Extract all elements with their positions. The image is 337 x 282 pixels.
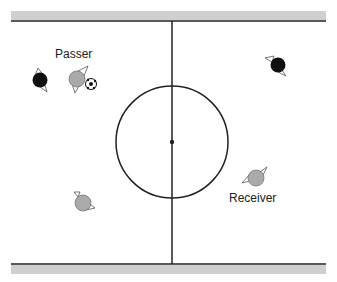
teammate-player-icon	[74, 192, 95, 211]
passer-player-icon	[69, 66, 88, 93]
center-spot	[170, 140, 174, 144]
ball-icon	[86, 79, 97, 90]
receiver-label: Receiver	[229, 191, 276, 205]
opponent-player-icon	[33, 68, 48, 92]
top-touchline-band	[11, 11, 326, 20]
opponent-player-icon	[265, 56, 286, 76]
soccer-field-diagram	[0, 0, 337, 282]
passer-label: Passer	[55, 47, 92, 61]
bottom-touchline-band	[11, 265, 326, 274]
receiver-player-icon	[242, 167, 267, 186]
